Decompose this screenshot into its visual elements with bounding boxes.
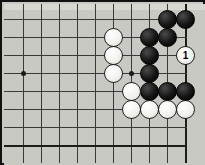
grid-line-vertical bbox=[23, 4, 24, 163]
stone-white[interactable] bbox=[140, 100, 159, 119]
grid-line-vertical bbox=[41, 4, 42, 163]
grid-line-horizontal bbox=[4, 145, 187, 147]
board-frame: 1 bbox=[0, 0, 205, 165]
stone-black[interactable] bbox=[140, 28, 159, 47]
stone-black[interactable] bbox=[140, 46, 159, 65]
grid-line-horizontal bbox=[4, 73, 187, 74]
star-point bbox=[129, 71, 134, 76]
stone-black[interactable] bbox=[176, 10, 195, 29]
grid-line-horizontal bbox=[4, 127, 187, 128]
stone-white[interactable] bbox=[104, 28, 123, 47]
stone-white[interactable] bbox=[158, 100, 177, 119]
grid-line-vertical bbox=[77, 4, 78, 163]
stone-white-move-1[interactable]: 1 bbox=[176, 46, 195, 65]
star-point bbox=[21, 71, 26, 76]
stone-white[interactable] bbox=[122, 100, 141, 119]
stone-black[interactable] bbox=[140, 64, 159, 83]
go-diagram-screenshot: 1 bbox=[0, 0, 205, 165]
grid-line-vertical bbox=[95, 4, 96, 163]
stone-black[interactable] bbox=[158, 28, 177, 47]
stone-black[interactable] bbox=[158, 82, 177, 101]
grid-line-vertical bbox=[59, 4, 60, 163]
stone-white[interactable] bbox=[176, 100, 195, 119]
stone-white[interactable] bbox=[122, 82, 141, 101]
stone-white[interactable] bbox=[104, 46, 123, 65]
stone-white[interactable] bbox=[104, 64, 123, 83]
stone-black[interactable] bbox=[158, 10, 177, 29]
grid-line-horizontal bbox=[4, 55, 187, 56]
stone-black[interactable] bbox=[176, 82, 195, 101]
board-surface: 1 bbox=[4, 4, 205, 165]
stone-black[interactable] bbox=[140, 82, 159, 101]
stone-move-number: 1 bbox=[177, 47, 194, 64]
